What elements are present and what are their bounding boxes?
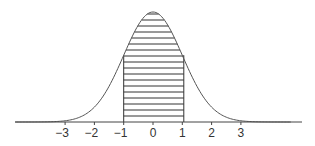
chart-canvas: −3−2−10123 [0, 0, 315, 146]
x-tick-label: −1 [114, 126, 128, 140]
x-tick-label: −2 [85, 126, 99, 140]
x-tick-label: 3 [238, 126, 245, 140]
x-tick-label: 2 [208, 126, 215, 140]
x-axis-ticks: −3−2−10123 [55, 122, 244, 140]
shaded-region [124, 14, 184, 122]
x-tick-label: 1 [179, 126, 186, 140]
x-tick-label: −3 [55, 126, 69, 140]
normal-distribution-diagram: −3−2−10123 [0, 0, 315, 146]
x-tick-label: 0 [150, 126, 157, 140]
bell-curve [15, 12, 290, 122]
